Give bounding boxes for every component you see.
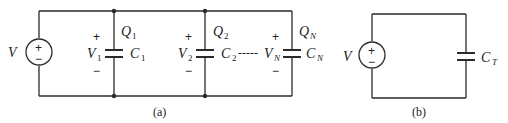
- capacitor-2: + − V 2 Q 2 C 2: [178, 9, 237, 98]
- capacitor-n: + − V N Q N C N: [264, 11, 324, 96]
- cap1-voltage-sub: 1: [97, 53, 102, 63]
- cap1-charge-sub: 1: [132, 31, 137, 41]
- cap1-voltage: V: [87, 46, 97, 61]
- cap2-minus: −: [185, 64, 192, 78]
- junction-dot: [112, 94, 116, 98]
- capn-charge: Q: [299, 24, 309, 39]
- capn-voltage-sub: N: [273, 53, 281, 63]
- panel-b: + − V C T (b): [343, 14, 498, 119]
- source-b-label: V: [343, 49, 353, 64]
- cap1-name: C: [130, 46, 140, 61]
- cap2-voltage-sub: 2: [188, 53, 193, 63]
- cap-t-name: C: [481, 50, 491, 65]
- panel-a: + − V + − V 1 Q 1 C 1 +: [8, 9, 324, 119]
- cap2-sub: 2: [232, 53, 237, 63]
- cap2-name: C: [221, 46, 231, 61]
- junction-dot: [203, 9, 207, 13]
- cap2-plus: +: [185, 30, 192, 44]
- ellipsis-dashes: -----: [238, 46, 258, 60]
- source-b-minus: −: [368, 55, 375, 69]
- cap2-voltage: V: [178, 46, 188, 61]
- cap2-charge-sub: 2: [224, 31, 229, 41]
- junction-dot: [203, 94, 207, 98]
- capn-voltage: V: [264, 46, 274, 61]
- cap1-charge: Q: [121, 24, 131, 39]
- caption-a: (a): [153, 105, 166, 119]
- circuit-diagram: + − V + − V 1 Q 1 C 1 +: [0, 0, 508, 123]
- capn-name: C: [306, 46, 316, 61]
- capn-charge-sub: N: [309, 31, 317, 41]
- cap-t-sub: T: [492, 57, 498, 67]
- capn-sub: N: [316, 53, 324, 63]
- cap2-charge: Q: [213, 24, 223, 39]
- junction-dot: [112, 9, 116, 13]
- cap1-minus: −: [93, 64, 100, 78]
- source-label: V: [8, 45, 18, 60]
- capn-plus: +: [272, 30, 279, 44]
- capn-minus: −: [272, 64, 279, 78]
- cap1-plus: +: [93, 30, 100, 44]
- cap1-sub: 1: [141, 53, 146, 63]
- caption-b: (b): [412, 105, 426, 119]
- capacitor-1: + − V 1 Q 1 C 1: [87, 9, 146, 98]
- source-minus: −: [35, 52, 42, 66]
